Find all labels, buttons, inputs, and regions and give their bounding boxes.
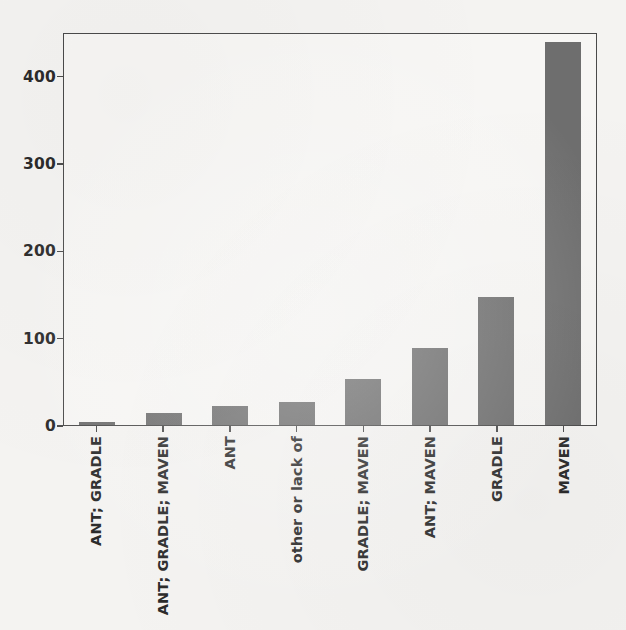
bar[interactable] bbox=[478, 297, 514, 425]
y-axis: 0100200300400 bbox=[0, 0, 63, 630]
x-axis-tick: MAVEN bbox=[530, 426, 597, 630]
bar[interactable] bbox=[345, 379, 381, 425]
bar-slot bbox=[397, 34, 464, 425]
bar[interactable] bbox=[545, 42, 581, 425]
x-axis-tick: GRADLE; MAVEN bbox=[330, 426, 397, 630]
x-axis: ANT; GRADLEANT; GRADLE; MAVENANTother or… bbox=[63, 426, 597, 630]
plot-area bbox=[63, 33, 597, 426]
x-axis-tick: ANT bbox=[197, 426, 264, 630]
bar[interactable] bbox=[212, 406, 248, 425]
x-axis-tick: ANT; GRADLE; MAVEN bbox=[130, 426, 197, 630]
bar-slot bbox=[131, 34, 198, 425]
bar-slot bbox=[530, 34, 597, 425]
x-axis-tick-label: GRADLE; MAVEN bbox=[356, 436, 371, 572]
bar[interactable] bbox=[146, 413, 182, 425]
x-axis-tick-mark bbox=[563, 426, 565, 432]
x-axis-tick-label: ANT; MAVEN bbox=[423, 436, 438, 538]
x-axis-tick-mark bbox=[162, 426, 164, 432]
bar-chart-figure: 0100200300400 ANT; GRADLEANT; GRADLE; MA… bbox=[0, 0, 626, 630]
x-axis-tick: ANT; MAVEN bbox=[397, 426, 464, 630]
x-axis-tick-label: ANT; GRADLE bbox=[89, 436, 104, 546]
x-axis-tick-label: MAVEN bbox=[557, 436, 572, 494]
x-axis-tick-mark bbox=[96, 426, 98, 432]
x-axis-tick-label: GRADLE bbox=[490, 436, 505, 502]
x-axis-tick: GRADLE bbox=[464, 426, 531, 630]
x-axis-tick-mark bbox=[496, 426, 498, 432]
bar[interactable] bbox=[412, 348, 448, 425]
x-axis-tick-mark bbox=[229, 426, 231, 432]
x-axis-tick-mark bbox=[363, 426, 365, 432]
bar-slot bbox=[330, 34, 397, 425]
bar-slot bbox=[197, 34, 264, 425]
x-axis-tick: ANT; GRADLE bbox=[63, 426, 130, 630]
bar[interactable] bbox=[79, 422, 115, 425]
bar-slot bbox=[463, 34, 530, 425]
x-axis-tick-label: ANT; GRADLE; MAVEN bbox=[156, 436, 171, 615]
x-axis-tick-label: other or lack of bbox=[290, 436, 305, 563]
x-axis-tick: other or lack of bbox=[263, 426, 330, 630]
x-axis-tick-mark bbox=[429, 426, 431, 432]
x-axis-tick-mark bbox=[296, 426, 298, 432]
bar[interactable] bbox=[279, 402, 315, 425]
bar-slot bbox=[64, 34, 131, 425]
x-axis-tick-label: ANT bbox=[223, 436, 238, 470]
bars-container bbox=[64, 34, 596, 425]
bar-slot bbox=[264, 34, 331, 425]
